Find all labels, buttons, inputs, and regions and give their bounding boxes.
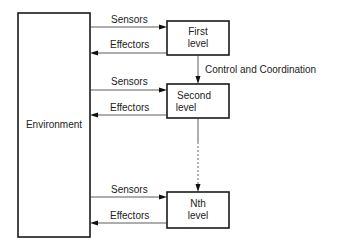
sensors-label-nth: Sensors — [111, 184, 148, 195]
level-block-nth: Nth level — [167, 192, 229, 228]
sensors-arrow-nth: Sensors — [90, 184, 167, 200]
effectors-label-second: Effectors — [110, 102, 149, 113]
second-level-label-line2: level — [176, 102, 197, 113]
arrow-right-icon — [159, 195, 167, 200]
control-coordination-label: Control and Coordination — [205, 64, 316, 75]
arrow-left-icon — [90, 51, 98, 56]
control-arrow-second-nth — [196, 118, 201, 192]
effectors-arrow-second: Effectors — [90, 102, 167, 118]
level-block-first: First level — [167, 21, 229, 55]
sensors-label-first: Sensors — [111, 14, 148, 25]
effectors-label-nth: Effectors — [110, 210, 149, 221]
sensors-arrow-first: Sensors — [90, 14, 167, 30]
effectors-arrow-first: Effectors — [90, 39, 167, 56]
sensors-label-second: Sensors — [111, 76, 148, 87]
control-arrow-first-second: Control and Coordination — [196, 55, 317, 84]
arrow-right-icon — [159, 88, 167, 93]
effectors-arrow-nth: Effectors — [90, 210, 167, 226]
level-block-second: Second level — [167, 84, 229, 118]
arrow-left-icon — [90, 113, 98, 118]
environment-block: Environment — [18, 13, 90, 237]
effectors-label-first: Effectors — [110, 39, 149, 50]
environment-label: Environment — [26, 119, 82, 130]
arrow-right-icon — [159, 25, 167, 30]
hierarchical-control-diagram: Environment First level Sensors Effector… — [0, 0, 337, 250]
first-level-label-line2: level — [188, 38, 209, 49]
sensors-arrow-second: Sensors — [90, 76, 167, 93]
arrow-down-icon — [196, 184, 201, 192]
second-level-label-line1: Second — [177, 90, 211, 101]
nth-level-label-line1: Nth — [190, 198, 206, 209]
arrow-down-icon — [196, 76, 201, 84]
first-level-label-line1: First — [188, 26, 208, 37]
nth-level-label-line2: level — [188, 210, 209, 221]
arrow-left-icon — [90, 221, 98, 226]
